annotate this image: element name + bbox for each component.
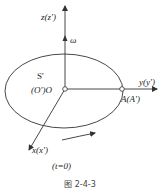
omega-arrow-icon [63,35,68,41]
point-a [120,87,125,92]
omega-label: ω [70,35,76,45]
figure-caption: 图 2-4-3 [64,180,96,189]
x-axis [29,89,65,150]
z-axis-label: z(z') [40,12,56,22]
time-label: (t=0) [52,161,71,171]
point-a-label: A(A') [120,94,140,104]
x-axis-label: x(x') [31,145,48,155]
rotation-arrow-icon [62,133,95,140]
origin-point [63,87,68,92]
origin-label: (O')O [31,85,52,95]
y-axis-label: y(y') [138,77,155,87]
rotating-frame-diagram: z(z') ω S' (O')O y(y') A(A') x(x') (t=0)… [0,0,159,189]
frame-label: S' [37,71,44,81]
